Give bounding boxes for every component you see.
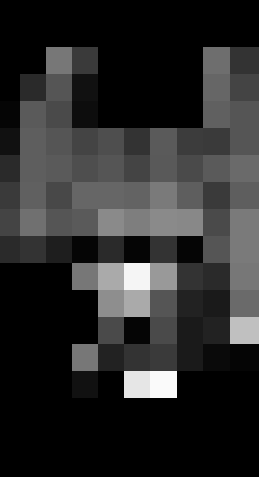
pixel-cell — [230, 101, 259, 128]
pixel-cell — [177, 236, 203, 263]
pixel-cell — [203, 290, 230, 317]
pixel-cell — [124, 182, 150, 209]
pixel-cell — [230, 182, 259, 209]
pixel-cell — [46, 182, 72, 209]
pixel-cell — [98, 209, 124, 236]
pixel-cell — [46, 47, 72, 74]
pixel-cell — [230, 209, 259, 236]
pixel-cell — [177, 209, 203, 236]
pixel-cell — [98, 344, 124, 371]
pixel-cell — [46, 128, 72, 155]
pixel-cell — [124, 263, 150, 290]
pixel-cell — [177, 344, 203, 371]
pixel-cell — [124, 317, 150, 344]
pixel-cell — [98, 128, 124, 155]
pixel-cell — [72, 74, 98, 101]
pixel-cell — [203, 128, 230, 155]
pixel-cell — [203, 47, 230, 74]
pixel-cell — [230, 155, 259, 182]
pixel-cell — [0, 182, 20, 209]
pixel-cell — [230, 317, 259, 344]
pixel-cell — [0, 155, 20, 182]
pixel-cell — [20, 74, 46, 101]
pixel-cell — [72, 263, 98, 290]
pixel-cell — [72, 182, 98, 209]
pixel-cell — [124, 344, 150, 371]
pixel-cell — [46, 155, 72, 182]
pixel-cell — [203, 182, 230, 209]
pixel-cell — [177, 317, 203, 344]
pixel-cell — [46, 236, 72, 263]
pixel-cell — [20, 101, 46, 128]
pixel-cell — [124, 290, 150, 317]
pixel-cell — [72, 209, 98, 236]
pixel-cell — [177, 155, 203, 182]
pixel-cell — [20, 209, 46, 236]
pixel-cell — [177, 182, 203, 209]
pixel-cell — [203, 263, 230, 290]
pixel-cell — [230, 290, 259, 317]
pixel-cell — [203, 101, 230, 128]
pixel-cell — [72, 101, 98, 128]
pixel-cell — [20, 128, 46, 155]
pixel-cell — [98, 263, 124, 290]
pixel-cell — [72, 128, 98, 155]
pixel-cell — [72, 371, 98, 398]
pixel-cell — [46, 74, 72, 101]
pixel-cell — [72, 344, 98, 371]
pixel-cell — [177, 128, 203, 155]
pixel-cell — [0, 209, 20, 236]
pixel-cell — [72, 47, 98, 74]
pixel-cell — [150, 182, 177, 209]
pixel-cell — [177, 263, 203, 290]
pixel-cell — [0, 236, 20, 263]
pixel-cell — [150, 236, 177, 263]
pixel-cell — [98, 317, 124, 344]
pixel-cell — [124, 371, 150, 398]
pixel-cell — [150, 290, 177, 317]
pixel-cell — [230, 47, 259, 74]
pixel-cell — [124, 128, 150, 155]
pixel-cell — [72, 155, 98, 182]
pixel-cell — [203, 344, 230, 371]
pixel-cell — [150, 371, 177, 398]
pixel-cell — [150, 128, 177, 155]
pixel-cell — [230, 74, 259, 101]
pixelated-image — [0, 0, 259, 477]
pixel-cell — [0, 101, 20, 128]
pixel-cell — [98, 236, 124, 263]
pixel-cell — [177, 290, 203, 317]
pixel-cell — [230, 128, 259, 155]
pixel-cell — [150, 317, 177, 344]
pixel-cell — [72, 236, 98, 263]
pixel-cell — [150, 263, 177, 290]
pixel-cell — [124, 236, 150, 263]
pixel-cell — [203, 317, 230, 344]
pixel-cell — [150, 344, 177, 371]
pixel-cell — [150, 209, 177, 236]
pixel-cell — [20, 182, 46, 209]
pixel-cell — [0, 128, 20, 155]
pixel-cell — [98, 155, 124, 182]
pixel-cell — [98, 182, 124, 209]
pixel-cell — [203, 74, 230, 101]
pixel-cell — [203, 155, 230, 182]
pixel-cell — [124, 155, 150, 182]
pixel-cell — [150, 155, 177, 182]
pixel-cell — [20, 236, 46, 263]
pixel-cell — [20, 155, 46, 182]
pixel-cell — [203, 236, 230, 263]
pixel-cell — [46, 101, 72, 128]
pixel-cell — [124, 209, 150, 236]
pixel-cell — [203, 209, 230, 236]
pixel-cell — [230, 344, 259, 371]
pixel-cell — [230, 236, 259, 263]
pixel-cell — [230, 263, 259, 290]
pixel-cell — [46, 209, 72, 236]
pixel-cell — [98, 290, 124, 317]
